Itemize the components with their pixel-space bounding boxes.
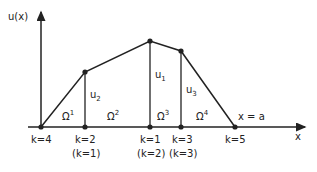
node-k-alt-label: (k=1) <box>72 148 100 159</box>
omega2-label: Ω2 <box>107 109 119 122</box>
node-dot <box>82 69 87 74</box>
u3-label: u3 <box>186 84 197 98</box>
node-dot <box>38 124 43 129</box>
u1-label: u1 <box>155 69 166 83</box>
omega4-label: Ω4 <box>196 109 209 122</box>
x-axis-label: x <box>295 131 301 142</box>
node-dot <box>147 38 152 43</box>
node-k-alt-label: (k=3) <box>169 148 197 159</box>
node-dot <box>232 124 237 129</box>
finite-element-diagram: u(x) x x = a u2 u1 u3 Ω1 Ω2 Ω3 Ω4 k=4 k=… <box>0 0 317 172</box>
node-k-label: k=1 <box>140 134 161 145</box>
node-dot <box>82 124 87 129</box>
node-k-alt-label: (k=2) <box>137 148 165 159</box>
y-axis-label: u(x) <box>8 11 28 22</box>
node-dot <box>147 124 152 129</box>
omega3-label: Ω3 <box>157 109 169 122</box>
node-k-label: k=4 <box>31 134 52 145</box>
boundary-label: x = a <box>238 111 265 122</box>
node-k-label: k=2 <box>75 134 96 145</box>
node-dot <box>178 48 183 53</box>
u2-label: u2 <box>90 89 101 103</box>
node-k-label: k=5 <box>225 134 246 145</box>
omega1-label: Ω1 <box>62 109 74 122</box>
node-k-label: k=3 <box>172 134 193 145</box>
node-dot <box>178 124 183 129</box>
